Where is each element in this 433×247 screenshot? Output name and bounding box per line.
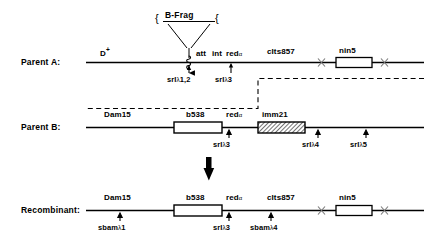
- recombinant-tick-srI3: [227, 213, 231, 221]
- dashed-connector: [86, 79, 424, 109]
- parent-b-imm21-box: [258, 122, 305, 133]
- row-title-parent-a: Parent A:: [21, 58, 60, 67]
- marker-num-4: 4: [315, 140, 319, 149]
- bfrag-leg-right: [191, 24, 210, 48]
- marker-num-8: 4: [273, 223, 277, 232]
- marker-label-srI-lambda-3-a: srIλ3: [215, 76, 232, 84]
- gene-label-red-alpha-b: redα: [226, 111, 242, 119]
- gene-label-red-alpha-a: redα: [226, 50, 242, 58]
- marker-label-sbam-lambda-4: sbamλ4: [250, 224, 278, 232]
- gene-label-b538-r: b538: [186, 194, 205, 202]
- recombinant-b538-box: [174, 205, 222, 216]
- recombinant-tick-sbam4: [269, 213, 273, 221]
- marker-num-7: 3: [226, 223, 230, 232]
- gene-D-superscript: +: [106, 46, 110, 53]
- parent-b-tick-srI5: [364, 130, 368, 138]
- gene-label-red-alpha-r: redα: [226, 194, 242, 202]
- parent-a-tick-srI3-head: [229, 63, 233, 68]
- bfrag-leg-left: [168, 24, 187, 48]
- marker-sbam-text-2: sbam: [250, 223, 270, 232]
- gene-alpha-r: α: [239, 195, 243, 201]
- cross-arrow-icon: [204, 157, 215, 181]
- bfrag-label: B-Frag: [165, 10, 194, 20]
- marker-num-3: 3: [226, 140, 230, 149]
- gene-red-text-a: red: [226, 49, 239, 58]
- parent-b-tick-srI3: [227, 130, 231, 138]
- marker-num-6: 1: [121, 223, 125, 232]
- marker-num-1: 1,2: [180, 75, 191, 84]
- marker-num-5: 5: [363, 140, 367, 149]
- marker-num-2: 3: [228, 75, 232, 84]
- gene-label-Dam15-b: Dam15: [104, 111, 131, 119]
- gene-red-text-b: red: [226, 110, 239, 119]
- marker-sbam-text-1: sbam: [98, 223, 118, 232]
- gene-label-D: D+: [100, 47, 110, 58]
- row-title-parent-b: Parent B:: [21, 123, 61, 132]
- gene-label-imm21-b: imm21: [262, 111, 288, 119]
- gene-alpha-b: α: [239, 112, 243, 118]
- gene-alpha-a: α: [239, 51, 243, 57]
- gene-label-Dam15-r: Dam15: [104, 194, 131, 202]
- gene-label-cIts857-r: cIts857: [267, 194, 295, 202]
- parent-b-b538-box: [174, 122, 222, 133]
- recombinant-nin5-box: [336, 206, 372, 216]
- gene-label-att: att: [196, 50, 206, 58]
- gene-label-nin5-a: nin5: [339, 47, 356, 55]
- recombinant-tick-sbam1: [118, 213, 122, 221]
- bfrag-brace-left: {: [155, 13, 159, 24]
- marker-label-sbam-lambda-1: sbamλ1: [98, 224, 126, 232]
- gene-label-b538-b: b538: [186, 111, 205, 119]
- gene-label-int: int: [212, 50, 222, 58]
- row-title-recombinant: Recombinant:: [21, 206, 80, 215]
- parent-b-tick-srI4: [316, 130, 320, 138]
- parent-a-nin5-box: [336, 58, 372, 68]
- marker-label-srI-lambda-3-r: srIλ3: [213, 224, 230, 232]
- gene-label-cIts857-a: cIts857: [267, 48, 295, 56]
- bfrag-brace-right: {: [215, 13, 219, 24]
- gene-label-nin5-r: nin5: [339, 194, 356, 202]
- marker-label-srI-lambda-4: srIλ4: [302, 141, 319, 149]
- figure-canvas: { { B-Frag Parent A: D+ att int redα cIt…: [0, 0, 433, 247]
- gene-red-text-r: red: [226, 193, 239, 202]
- marker-label-srI-lambda-5: srIλ5: [350, 141, 367, 149]
- marker-label-srI-lambda-1-2: srIλ1,2: [167, 76, 191, 84]
- marker-label-srI-lambda-3-b: srIλ3: [213, 141, 230, 149]
